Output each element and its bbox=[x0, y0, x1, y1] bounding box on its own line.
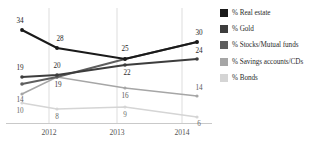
legend-swatch-real-estate bbox=[220, 9, 228, 17]
point-label-real-estate-2: 25 bbox=[121, 45, 129, 53]
chart-screenshot: 2012 2013 2014 10 8 9 6 bbox=[0, 0, 318, 142]
point-label-savings-2: 16 bbox=[121, 92, 129, 100]
legend-label-savings: % Savings accounts/CDs bbox=[232, 58, 303, 66]
series-point-real-estate-2 bbox=[123, 57, 127, 61]
x-tick-2012: 2012 bbox=[41, 128, 56, 137]
plot-area: 2012 2013 2014 10 8 9 6 bbox=[0, 2, 218, 142]
legend-item-real-estate[interactable]: % Real estate bbox=[220, 9, 318, 18]
legend-item-stocks[interactable]: % Stocks/Mutual funds bbox=[220, 41, 318, 50]
point-label-savings-0: 14 bbox=[16, 96, 24, 104]
line-chart-svg: 2012 2013 2014 10 8 9 6 bbox=[0, 2, 218, 142]
legend-swatch-stocks bbox=[220, 41, 228, 49]
point-label-bonds-3: 6 bbox=[197, 120, 201, 128]
series-line-savings bbox=[22, 77, 197, 96]
series-point-gold-2 bbox=[123, 63, 127, 67]
legend-swatch-savings bbox=[220, 58, 228, 66]
point-label-stocks-1: 19 bbox=[54, 81, 62, 89]
series-point-savings-3 bbox=[195, 94, 198, 97]
chart-legend: % Real estate % Gold % Stocks/Mutual fun… bbox=[220, 9, 318, 90]
legend-item-gold[interactable]: % Gold bbox=[220, 25, 318, 34]
point-label-bonds-1: 8 bbox=[55, 113, 59, 121]
legend-item-bonds[interactable]: % Bonds bbox=[220, 74, 318, 83]
series-point-gold-0 bbox=[20, 75, 24, 79]
series-line-gold bbox=[22, 59, 197, 77]
series-line-bonds bbox=[22, 103, 197, 117]
legend-label-bonds: % Bonds bbox=[232, 74, 258, 82]
x-axis-tick-labels: 2012 2013 2014 bbox=[41, 128, 189, 137]
legend-swatch-bonds bbox=[220, 74, 228, 82]
point-label-gold-1: 20 bbox=[53, 62, 61, 70]
point-label-bonds-0: 10 bbox=[16, 107, 24, 115]
series-point-savings-2 bbox=[123, 86, 126, 89]
series-real-estate: 34 28 25 30 bbox=[16, 17, 203, 61]
series-point-bonds-3 bbox=[195, 115, 198, 118]
point-label-real-estate-1: 28 bbox=[56, 35, 64, 43]
point-label-savings-3: 14 bbox=[195, 84, 203, 92]
point-label-gold-2: 22 bbox=[123, 69, 131, 77]
series-point-bonds-2 bbox=[123, 105, 126, 108]
point-label-real-estate-3: 30 bbox=[195, 29, 203, 37]
point-label-gold-3: 24 bbox=[195, 47, 203, 55]
series-point-gold-1 bbox=[55, 73, 59, 77]
series-point-gold-3 bbox=[195, 57, 199, 61]
legend-item-savings[interactable]: % Savings accounts/CDs bbox=[220, 58, 318, 67]
series-point-real-estate-0 bbox=[20, 28, 24, 32]
legend-label-real-estate: % Real estate bbox=[232, 9, 270, 17]
series-point-stocks-0 bbox=[20, 82, 24, 86]
point-label-gold-0: 19 bbox=[16, 64, 24, 72]
series-point-real-estate-3 bbox=[195, 40, 199, 44]
series-line-real-estate bbox=[22, 30, 197, 59]
x-tick-2014: 2014 bbox=[174, 128, 189, 137]
series-point-bonds-1 bbox=[55, 107, 58, 110]
series-bonds: 10 8 9 6 bbox=[16, 101, 201, 128]
point-label-real-estate-0: 34 bbox=[16, 17, 24, 25]
x-tick-2013: 2013 bbox=[109, 128, 124, 137]
legend-label-stocks: % Stocks/Mutual funds bbox=[232, 41, 298, 49]
point-label-bonds-2: 9 bbox=[123, 111, 127, 119]
legend-label-gold: % Gold bbox=[232, 25, 254, 33]
series-point-real-estate-1 bbox=[55, 46, 59, 50]
legend-swatch-gold bbox=[220, 25, 228, 33]
